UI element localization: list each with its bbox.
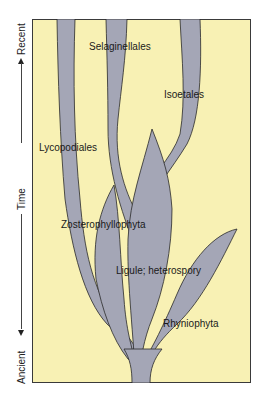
lineage-base: [124, 349, 162, 383]
label-ligule-heterospory: Ligule; heterospory: [116, 265, 201, 276]
axis-label-time: Time: [16, 188, 27, 210]
label-selaginellales: Selaginellales: [89, 41, 151, 52]
axis-label-recent: Recent: [16, 23, 27, 55]
time-axis-line-lower: [21, 214, 22, 329]
label-rhyniophyta: Rhyniophyta: [163, 318, 219, 329]
label-lycopodiales: Lycopodiales: [39, 142, 97, 153]
arrow-down-icon: [18, 330, 24, 336]
label-isoetales: Isoetales: [164, 89, 204, 100]
axis-label-ancient: Ancient: [16, 351, 27, 384]
label-zosterophyllophyta: Zosterophyllophyta: [61, 219, 146, 230]
lineage-ligule: [128, 129, 172, 383]
time-axis-line-upper: [21, 63, 22, 143]
